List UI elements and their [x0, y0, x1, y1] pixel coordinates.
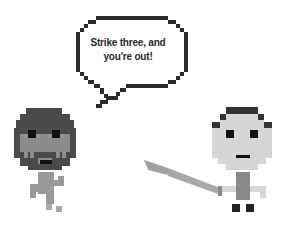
- batter-character: [212, 107, 272, 212]
- speech-line-1: Strike three, and: [80, 36, 176, 50]
- speech-bubble-text: Strike three, and you're out!: [80, 36, 176, 64]
- comic-scene: Strike three, and you're out!: [0, 0, 287, 226]
- pixel-art-canvas: [0, 0, 287, 226]
- speech-line-2: you're out!: [80, 50, 176, 64]
- catcher-character: [14, 108, 76, 212]
- bat-icon: [144, 160, 222, 196]
